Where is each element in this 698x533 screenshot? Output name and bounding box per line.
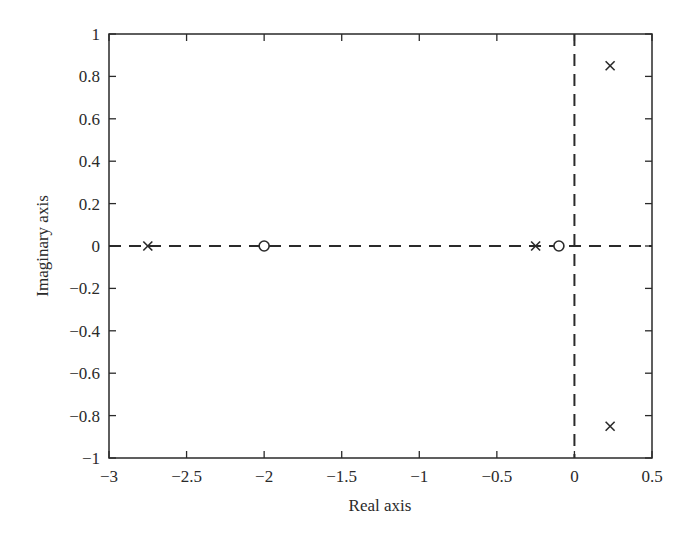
x-tick-label: −0.5 <box>481 467 512 486</box>
reference-lines <box>109 34 652 458</box>
x-axis-ticks: −3−2.5−2−1.5−1−0.500.5 <box>100 34 663 486</box>
y-tick-label: −0.6 <box>69 364 100 383</box>
y-tick-label: −0.4 <box>69 322 100 341</box>
y-tick-label: 0.6 <box>79 110 100 129</box>
pole-marker <box>606 422 615 431</box>
y-tick-label: 0.8 <box>79 67 100 86</box>
y-tick-label: −1 <box>82 449 100 468</box>
y-tick-label: 0.2 <box>79 195 100 214</box>
x-axis-label: Real axis <box>349 496 412 515</box>
y-tick-label: 1 <box>92 25 101 44</box>
y-axis-label: Imaginary axis <box>33 195 52 297</box>
y-tick-label: −0.8 <box>69 407 100 426</box>
x-tick-label: −2 <box>255 467 273 486</box>
x-tick-label: 0 <box>570 467 579 486</box>
x-tick-label: −2.5 <box>171 467 202 486</box>
x-tick-label: −1.5 <box>326 467 357 486</box>
x-tick-label: 0.5 <box>641 467 662 486</box>
pole-marker <box>606 61 615 70</box>
zero-marker <box>259 241 269 251</box>
x-tick-label: −1 <box>410 467 428 486</box>
y-tick-label: 0.4 <box>79 152 101 171</box>
y-tick-label: −0.2 <box>69 279 100 298</box>
zero-marker <box>554 241 564 251</box>
x-tick-label: −3 <box>100 467 118 486</box>
y-tick-label: 0 <box>92 237 101 256</box>
pole-zero-plot: −3−2.5−2−1.5−1−0.500.5 10.80.60.40.20−0.… <box>0 0 698 533</box>
